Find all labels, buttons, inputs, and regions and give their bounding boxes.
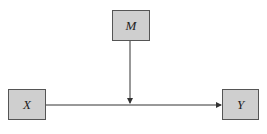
node-x-label: X: [23, 97, 31, 113]
node-m: M: [112, 10, 150, 41]
node-x: X: [8, 89, 46, 120]
node-y: Y: [222, 89, 259, 120]
node-y-label: Y: [237, 97, 244, 113]
node-m-label: M: [126, 18, 137, 34]
